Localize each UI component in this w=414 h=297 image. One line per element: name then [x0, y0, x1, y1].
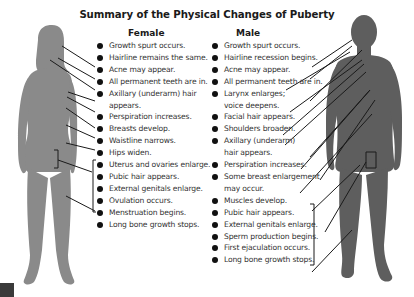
list-item: Larynx enlarges; [212, 88, 323, 100]
list-item: Uterus and ovaries enlarge. [97, 159, 210, 171]
list-item: Long bone growth stops. [97, 219, 210, 231]
female-heading: Female [128, 28, 165, 38]
list-item: Breasts develop. [97, 123, 210, 135]
bullet-icon [97, 162, 103, 168]
list-item: Acne may appear. [97, 64, 210, 76]
bullet-icon [97, 210, 103, 216]
bullet-icon [212, 138, 218, 144]
bullet-icon [212, 198, 218, 204]
bullet-icon [97, 67, 103, 73]
bullet-icon [97, 43, 103, 49]
list-item-continuation: appears. [97, 100, 210, 112]
list-item: Shoulders broaden. [212, 123, 323, 135]
female-change-list: Growth spurt occurs. Hairline remains th… [97, 40, 210, 231]
list-item: Facial hair appears. [212, 111, 323, 123]
bullet-icon [212, 222, 218, 228]
bullet-icon [97, 138, 103, 144]
bullet-icon [97, 186, 103, 192]
bullet-icon [212, 257, 218, 263]
list-item: First ejaculation occurs. [212, 242, 323, 254]
bullet-icon [97, 126, 103, 132]
bullet-icon [212, 234, 218, 240]
bullet-icon [212, 126, 218, 132]
list-item: Muscles develop. [212, 195, 323, 207]
bullet-icon [97, 79, 103, 85]
list-item: Growth spurt occurs. [97, 40, 210, 52]
list-item: Growth spurt occurs. [212, 40, 323, 52]
bullet-icon [97, 150, 103, 156]
list-item: External genitals enlarge. [212, 219, 323, 231]
puberty-diagram: Summary of the Physical Changes of Puber… [0, 0, 414, 297]
male-change-list: Growth spurt occurs. Hairline recession … [212, 40, 323, 266]
list-item: External genitals enlarge. [97, 183, 210, 195]
list-item: Some breast enlargement [212, 171, 323, 183]
list-item: Acne may appear. [212, 64, 323, 76]
bullet-icon [212, 245, 218, 251]
list-item: Sperm production begins. [212, 231, 323, 243]
list-item: Long bone growth stops. [212, 254, 323, 266]
list-item: Axillary (underarm) [212, 135, 323, 147]
list-item: Waistline narrows. [97, 135, 210, 147]
list-item: All permanent teeth are in. [212, 76, 323, 88]
male-silhouette [326, 15, 402, 282]
bullet-icon [97, 222, 103, 228]
list-item: Axillary (underarm) hair [97, 88, 210, 100]
page-title: Summary of the Physical Changes of Puber… [0, 9, 414, 20]
list-item: Ovulation occurs. [97, 195, 210, 207]
bullet-icon [212, 210, 218, 216]
page-corner-marker [0, 283, 14, 297]
bullet-icon [212, 55, 218, 61]
bullet-icon [212, 79, 218, 85]
bullet-icon [212, 162, 218, 168]
bullet-icon [212, 91, 218, 97]
list-item: Hairline remains the same. [97, 52, 210, 64]
list-item: All permanent teeth are in. [97, 76, 210, 88]
list-item: Menstruation begins. [97, 207, 210, 219]
bullet-icon [212, 174, 218, 180]
list-item: Hairline recession begins. [212, 52, 323, 64]
list-item-continuation: may occur. [212, 183, 323, 195]
bullet-icon [212, 67, 218, 73]
list-item: Pubic hair appears. [212, 207, 323, 219]
bullet-icon [97, 55, 103, 61]
bullet-icon [97, 91, 103, 97]
list-item-continuation: hair appears. [212, 147, 323, 159]
bullet-icon [212, 114, 218, 120]
bullet-icon [97, 198, 103, 204]
list-item: Perspiration increases. [212, 159, 323, 171]
list-item: Hips widen. [97, 147, 210, 159]
list-item: Pubic hair appears. [97, 171, 210, 183]
male-heading: Male [236, 28, 260, 38]
bullet-icon [212, 43, 218, 49]
list-item: Perspiration increases. [97, 111, 210, 123]
bullet-icon [97, 174, 103, 180]
bullet-icon [97, 114, 103, 120]
list-item-continuation: voice deepens. [212, 100, 323, 112]
